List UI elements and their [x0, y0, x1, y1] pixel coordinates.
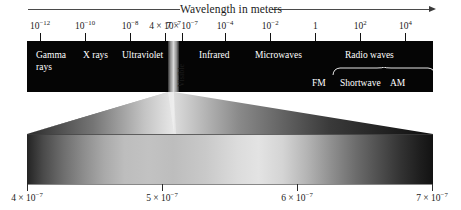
- radio-subband-shortwave: Shortwave: [340, 78, 381, 89]
- top-axis-tick-mark: [315, 33, 316, 41]
- top-axis-tick-mark: [85, 33, 86, 41]
- top-axis-tick-label: 10−8: [122, 20, 139, 32]
- figure-title: Wavelength in meters: [180, 0, 272, 19]
- top-axis-tick-mark: [360, 33, 361, 41]
- top-axis-tick-mark: [182, 33, 183, 41]
- top-axis-tick-mark: [40, 33, 41, 41]
- magnification-cone: [0, 92, 461, 135]
- top-axis-tick-label: 10−12: [30, 20, 50, 32]
- band-label-text: Visible: [177, 64, 186, 87]
- axis-line-left: [28, 9, 180, 10]
- top-axis-tick-label: 104: [399, 20, 412, 32]
- bottom-axis-tick-mark: [27, 184, 28, 191]
- top-axis-tick-mark: [130, 33, 131, 41]
- radio-waves-brace: [332, 67, 433, 75]
- bottom-axis: 4 × 10−75 × 10−76 × 10−77 × 10−7: [0, 184, 461, 210]
- radio-subband-fm: FM: [312, 78, 326, 89]
- wavelength-axis-header: Wavelength in meters: [0, 0, 461, 20]
- band-label-infrared: Infrared: [199, 50, 230, 61]
- spectrum-band: Gamma raysX raysUltravioletVisibleInfrar…: [27, 41, 433, 92]
- top-axis-tick-label: 10−4: [217, 20, 234, 32]
- bottom-axis-tick-mark: [297, 184, 298, 191]
- band-label-ultraviolet: Ultraviolet: [122, 50, 163, 61]
- top-axis-tick-mark: [405, 33, 406, 41]
- visible-spectrum-bar: [27, 134, 433, 184]
- band-label-x-rays: X rays: [83, 50, 108, 61]
- band-label-visible: Visible: [168, 49, 179, 89]
- band-label-gamma-rays: Gamma rays: [36, 50, 70, 73]
- spectrum-figure: Wavelength in meters 10−1210−1010−84 × 1…: [0, 0, 461, 210]
- radio-subband-am: AM: [390, 78, 405, 89]
- top-axis-tick-label: 10−2: [262, 20, 279, 32]
- top-axis-tick-label: 7 × 10−7: [166, 20, 198, 32]
- arrow-right-icon: [429, 6, 436, 12]
- bottom-axis-tick-mark: [432, 184, 433, 191]
- bottom-axis-tick-mark: [162, 184, 163, 191]
- bottom-axis-tick-label: 4 × 10−7: [11, 192, 43, 205]
- top-axis-tick-label: 1: [313, 20, 318, 32]
- top-axis-tick-mark: [225, 33, 226, 41]
- top-axis-tick-mark: [165, 33, 166, 41]
- band-label-radio-waves: Radio waves: [345, 50, 394, 61]
- bottom-axis-line: [27, 184, 433, 185]
- bottom-axis-tick-label: 6 × 10−7: [281, 192, 313, 205]
- bottom-axis-tick-label: 5 × 10−7: [146, 192, 178, 205]
- top-axis-tick-label: 102: [354, 20, 367, 32]
- top-axis-tick-label: 10−10: [75, 20, 95, 32]
- top-axis-tick-mark: [270, 33, 271, 41]
- visible-bar-top-rule: [27, 134, 433, 135]
- top-axis: 10−1210−1010−84 × 10−77 × 10−710−410−211…: [0, 20, 461, 42]
- axis-line-right: [272, 9, 430, 10]
- bottom-axis-tick-label: 7 × 10−7: [416, 192, 448, 205]
- band-label-microwaves: Microwaves: [255, 50, 302, 61]
